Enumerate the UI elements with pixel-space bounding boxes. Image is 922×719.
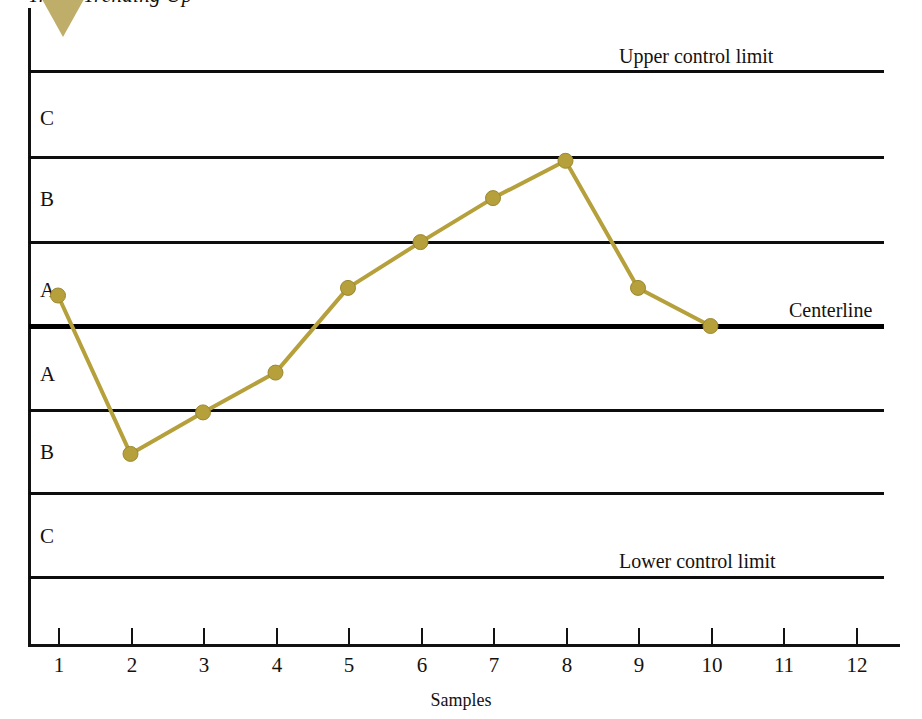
zone-label-lower-b: B [40,442,54,463]
data-point-3 [196,405,211,420]
x-tick-label-7: 7 [489,655,500,676]
x-axis-line [28,644,900,647]
x-tick-12 [856,628,858,645]
x-tick-5 [348,628,350,645]
lower-control-limit-label: Lower control limit [619,551,776,571]
x-tick-1 [58,628,60,645]
centerline-label: Centerline [789,300,872,320]
series-markers [51,153,719,461]
x-tick-label-4: 4 [272,655,283,676]
centerline-line [29,324,884,329]
upper-zone-bc-line [29,156,884,159]
x-tick-label-3: 3 [199,655,210,676]
zone-label-upper-c: C [40,108,54,129]
zone-label-lower-c: C [40,526,54,547]
lower-zone-ab-line [29,409,884,412]
data-point-2 [123,446,138,461]
data-point-7 [486,191,501,206]
x-tick-label-2: 2 [127,655,138,676]
zone-label-upper-a: A [40,280,55,301]
x-tick-label-5: 5 [344,655,355,676]
upper-control-limit-label: Upper control limit [619,46,773,66]
x-tick-label-11: 11 [774,655,794,676]
x-tick-7 [493,628,495,645]
x-tick-label-6: 6 [417,655,428,676]
data-series-layer [0,0,922,719]
data-point-5 [341,280,356,295]
x-tick-label-10: 10 [702,655,723,676]
x-tick-8 [566,628,568,645]
x-tick-10 [711,628,713,645]
x-axis-title: Samples [0,690,922,711]
upper-zone-ab-line [29,241,884,244]
x-tick-6 [421,628,423,645]
trend-arrow-icon [38,0,88,37]
lower-zone-bc-line [29,492,884,495]
lower-control-limit-line [29,576,884,579]
x-tick-3 [203,628,205,645]
zone-label-upper-b: B [40,189,54,210]
x-tick-label-9: 9 [634,655,645,676]
x-tick-label-12: 12 [847,655,868,676]
control-chart: Trend Trending Up C B A A B C Upper cont… [0,0,922,719]
data-point-4 [268,365,283,380]
data-point-9 [631,280,646,295]
x-tick-label-1: 1 [54,655,65,676]
zone-label-lower-a: A [40,364,55,385]
x-tick-label-8: 8 [562,655,573,676]
x-tick-4 [276,628,278,645]
x-tick-9 [638,628,640,645]
upper-control-limit-line [29,70,884,73]
x-tick-2 [131,628,133,645]
x-tick-11 [783,628,785,645]
